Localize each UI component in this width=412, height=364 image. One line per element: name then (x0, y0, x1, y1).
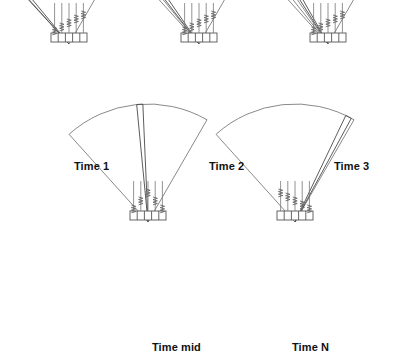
transducer-array-box[interactable] (181, 33, 217, 42)
active-beam (137, 104, 148, 222)
transducer-array-box[interactable] (51, 33, 87, 42)
panel-time-2 (120, 0, 258, 44)
panel-label-time-mid: Time mid (152, 341, 201, 353)
panel-time-3 (249, 0, 387, 44)
diagram-canvas (0, 0, 412, 364)
panel-label-time-1: Time 1 (74, 160, 109, 172)
beam-steering-figure: Time 1Time 2Time 3Time midTime N (0, 0, 412, 364)
panel-time-1 (0, 0, 128, 44)
panel-label-time-3: Time 3 (334, 160, 369, 172)
transducer-array-box[interactable] (310, 33, 346, 42)
panel-label-time-n: Time N (292, 341, 329, 353)
panel-label-time-2: Time 2 (209, 160, 244, 172)
